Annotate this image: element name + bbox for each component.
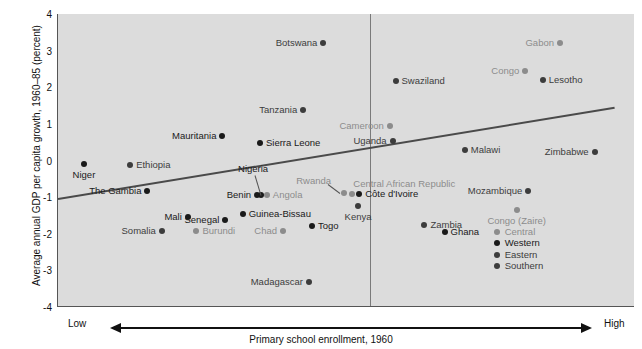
y-tick-label: 1 [18, 118, 52, 129]
data-point[interactable] [356, 191, 362, 197]
data-point[interactable] [514, 207, 520, 213]
y-tick-label: 0 [18, 155, 52, 166]
legend-swatch-icon [494, 240, 500, 246]
y-tick-label: 4 [18, 9, 52, 20]
data-point-label: Cameroon [339, 122, 383, 132]
data-point-label: Ghana [451, 227, 480, 237]
data-point[interactable] [193, 228, 199, 234]
arrow-right-icon [581, 323, 592, 333]
legend-swatch-icon [494, 252, 500, 258]
data-point[interactable] [144, 188, 150, 194]
data-point[interactable] [306, 279, 312, 285]
plot-area: NigerEthiopiaMauritaniaSierra LeoneThe G… [57, 14, 634, 307]
data-point[interactable] [309, 223, 315, 229]
data-point[interactable] [525, 188, 531, 194]
data-point[interactable] [390, 138, 396, 144]
data-point[interactable] [81, 161, 87, 167]
data-point-label: Guinea-Bissau [249, 209, 311, 219]
y-tick-label: 2 [18, 82, 52, 93]
data-point-label: Mali [164, 213, 181, 223]
data-point-label: Congo [491, 66, 519, 76]
data-point[interactable] [393, 78, 399, 84]
data-point[interactable] [264, 192, 270, 198]
data-point-label: Angola [273, 190, 303, 200]
data-point[interactable] [341, 190, 347, 196]
legend-item-label: Eastern [505, 249, 538, 261]
x-axis-high-label: High [604, 318, 625, 329]
data-point-label: Benin [227, 190, 251, 200]
x-axis-title: Primary school enrollment, 1960 [0, 334, 642, 345]
legend-item-label: Central [505, 226, 536, 238]
data-point-label: Madagascar [251, 278, 303, 288]
data-point-label: Niger [73, 170, 96, 180]
x-axis-arrow [110, 323, 592, 333]
chart-root: Average annual GDP per capita growth, 19… [0, 0, 642, 349]
data-point[interactable] [349, 191, 355, 197]
data-point-label: The Gambia [89, 186, 141, 196]
y-tick-label: 3 [18, 45, 52, 56]
data-point-label: Chad [254, 226, 277, 236]
region-divider-line [370, 14, 371, 306]
legend-swatch-icon [494, 229, 500, 235]
legend-item-label: Western [505, 237, 540, 249]
data-point-label: Ethiopia [136, 160, 170, 170]
data-point[interactable] [442, 229, 448, 235]
data-point-label: Botswana [276, 38, 318, 48]
data-point[interactable] [557, 40, 563, 46]
data-point-label: Tanzania [259, 105, 297, 115]
data-point-label: Côte d'Ivoire [365, 189, 418, 199]
data-point[interactable] [300, 107, 306, 113]
arrow-line [119, 327, 583, 329]
data-point-label: Zimbabwe [545, 148, 589, 158]
data-point[interactable] [127, 162, 133, 168]
data-point-label: Mauritania [172, 131, 216, 141]
data-point-label: Togo [318, 221, 339, 231]
data-point[interactable] [421, 222, 427, 228]
data-point-label: Kenya [345, 213, 372, 223]
plot-canvas: NigerEthiopiaMauritaniaSierra LeoneThe G… [58, 14, 634, 306]
data-point[interactable] [280, 228, 286, 234]
data-point[interactable] [222, 217, 228, 223]
data-point[interactable] [592, 149, 598, 155]
data-point[interactable] [540, 77, 546, 83]
data-point-label: Mozambique [468, 186, 522, 196]
data-point[interactable] [462, 147, 468, 153]
legend-item-label: Southern [505, 260, 544, 272]
data-point[interactable] [355, 203, 361, 209]
data-point[interactable] [159, 228, 165, 234]
y-tick-label: -1 [18, 192, 52, 203]
data-point[interactable] [320, 40, 326, 46]
data-point[interactable] [219, 133, 225, 139]
data-point-label: Burundi [202, 226, 235, 236]
data-point-label: Sierra Leone [266, 138, 320, 148]
data-point-label: Swaziland [402, 76, 445, 86]
data-point[interactable] [240, 211, 246, 217]
data-point-label: Somalia [122, 226, 156, 236]
data-point-label: Malawi [471, 145, 501, 155]
y-tick-label: -4 [18, 302, 52, 313]
data-point[interactable] [257, 140, 263, 146]
data-point[interactable] [522, 68, 528, 74]
trend-line [58, 107, 615, 200]
data-point-label: Nigeria [238, 164, 268, 174]
data-point-label: Uganda [353, 137, 386, 147]
x-axis-low-label: Low [68, 318, 86, 329]
data-point-label: Congo (Zaire) [487, 216, 546, 226]
y-tick-label: -2 [18, 228, 52, 239]
data-point-label: Senegal [184, 215, 219, 225]
legend-swatch-icon [494, 263, 500, 269]
data-point[interactable] [387, 123, 393, 129]
data-point-label: Gabon [525, 39, 554, 49]
y-tick-label: -3 [18, 265, 52, 276]
data-point-label: Lesotho [549, 75, 583, 85]
data-point-label: Rwanda [296, 176, 331, 186]
